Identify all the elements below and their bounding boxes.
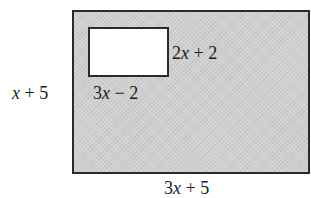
inner-width-label: 3x − 2 <box>93 84 138 102</box>
inner-height-label: 2x + 2 <box>172 44 217 62</box>
outer-width-label: 3x + 5 <box>164 179 209 197</box>
outer-height-label: x + 5 <box>12 84 48 102</box>
inner-rectangle-cutout <box>88 27 169 77</box>
area-diagram: x + 5 3x − 2 2x + 2 3x + 5 <box>0 0 311 198</box>
